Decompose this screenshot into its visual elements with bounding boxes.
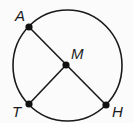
label-H: H [112, 103, 123, 120]
label-T: T [12, 103, 23, 120]
label-M: M [71, 45, 84, 62]
point-T [25, 100, 32, 107]
point-M [62, 61, 69, 68]
label-A: A [14, 7, 25, 24]
point-H [102, 101, 109, 108]
circle-diagram: A M T H [0, 0, 133, 123]
segment-MT [29, 65, 66, 104]
point-A [25, 23, 32, 30]
